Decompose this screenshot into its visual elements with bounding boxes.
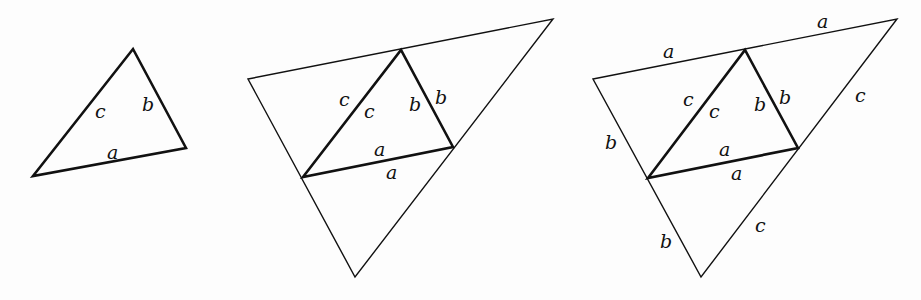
panel-original-triangle: cba bbox=[33, 49, 186, 176]
panel-medial-triangle: ccbbaa bbox=[248, 19, 553, 277]
outer-triangle bbox=[593, 19, 897, 277]
side-label-b: b bbox=[754, 93, 766, 115]
side-label-c: c bbox=[709, 100, 720, 122]
side-label-a: a bbox=[817, 10, 828, 32]
side-label-a: a bbox=[374, 138, 385, 160]
panel-labeled-outer-triangle: aaccbbcbaacb bbox=[593, 10, 897, 277]
side-label-a: a bbox=[719, 138, 730, 160]
side-label-b: b bbox=[409, 93, 421, 115]
side-label-a: a bbox=[663, 40, 674, 62]
side-label-b: b bbox=[435, 86, 447, 108]
triangle-construction-diagram: cba ccbbaa aaccbbcbaacb bbox=[0, 0, 921, 300]
side-label-c: c bbox=[755, 214, 766, 236]
side-label-c: c bbox=[855, 84, 866, 106]
side-label-c: c bbox=[339, 88, 350, 110]
side-label-a: a bbox=[386, 161, 397, 183]
side-label-b: b bbox=[605, 131, 617, 153]
side-label-b: b bbox=[779, 86, 791, 108]
side-label-c: c bbox=[95, 100, 106, 122]
side-label-b: b bbox=[660, 230, 672, 252]
diagram-canvas: cba ccbbaa aaccbbcbaacb bbox=[0, 0, 921, 300]
side-label-a: a bbox=[107, 141, 118, 163]
outer-triangle bbox=[248, 19, 553, 277]
side-label-c: c bbox=[364, 100, 375, 122]
side-label-b: b bbox=[142, 93, 154, 115]
side-label-c: c bbox=[683, 88, 694, 110]
side-label-a: a bbox=[731, 162, 742, 184]
